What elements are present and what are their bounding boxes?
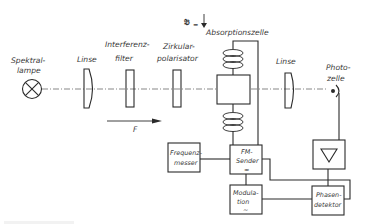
setup-diagram: Spektral- lampe Linse Interferenz- filte… xyxy=(0,0,365,224)
circular-polarizer xyxy=(173,70,181,107)
frequency-meter-box xyxy=(168,143,200,172)
photocell xyxy=(331,85,339,140)
lens-2-label: Linse xyxy=(276,57,296,66)
interference-filter xyxy=(126,70,134,107)
modulation-label-1: Modula- xyxy=(233,189,259,197)
lens-1-label: Linse xyxy=(77,55,97,64)
photocell-label-2: zelle xyxy=(326,74,345,83)
filter-label-1: Interferenz- xyxy=(105,40,150,49)
polarizer-label-1: Zirkular- xyxy=(162,42,195,51)
field-subscript: = xyxy=(193,21,198,29)
photocell-label-1: Photo- xyxy=(326,63,351,72)
lens-2 xyxy=(285,73,294,108)
fm-sender-label-1: FM- xyxy=(241,148,253,156)
modulation-symbol: ~ xyxy=(243,206,248,214)
lamp-label-1: Spektral- xyxy=(11,56,46,65)
fm-sender-symbol: ≈ xyxy=(244,166,249,174)
amplifier-box xyxy=(313,140,345,169)
frequency-meter-label-2: messer xyxy=(174,159,198,167)
cropped-caption xyxy=(4,221,74,224)
filter-label-2: filter xyxy=(115,54,134,63)
light-direction-arrow-icon xyxy=(152,119,162,124)
phase-detector-label-2: detektor xyxy=(314,201,342,209)
lamp-label-2: lampe xyxy=(17,66,41,75)
lens-1 xyxy=(84,69,93,108)
spectral-lamp xyxy=(23,80,42,99)
field-label: 𝔅 xyxy=(183,18,190,27)
fm-sender-label-2: Sender xyxy=(236,157,259,165)
frequency-meter-label-1: Frequenz- xyxy=(170,149,203,157)
phase-detector-label-1: Phasen- xyxy=(316,191,342,199)
modulation-label-2: tion xyxy=(237,198,249,206)
light-direction-label: F xyxy=(133,125,138,134)
polarizer-label-2: polarisator xyxy=(156,54,199,63)
absorption-cell xyxy=(217,41,258,145)
cell-label: Absorptionszelle xyxy=(205,28,269,37)
